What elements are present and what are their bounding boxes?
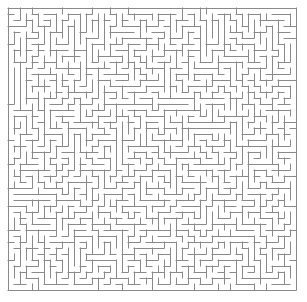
maze-figure: Maze	[0, 0, 307, 302]
maze-canvas	[0, 0, 307, 302]
